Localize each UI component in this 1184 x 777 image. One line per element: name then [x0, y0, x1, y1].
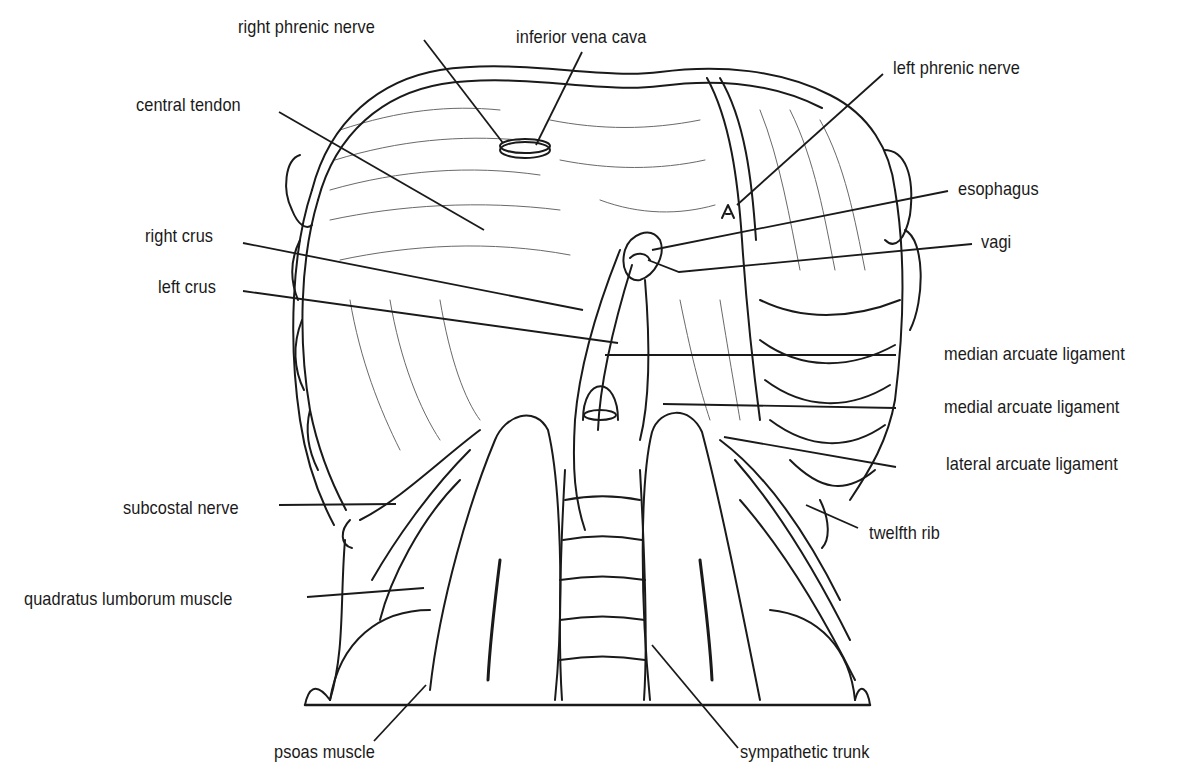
vertebral-column — [560, 470, 565, 700]
label-psoas-muscle: psoas muscle — [274, 741, 375, 763]
leader-twelfth-rib — [806, 505, 858, 528]
leader-psoas-muscle — [374, 685, 426, 741]
label-vagi: vagi — [981, 231, 1011, 253]
right-psoas — [430, 416, 560, 700]
label-esophagus: esophagus — [958, 178, 1039, 200]
label-median-arcuate-ligament: median arcuate ligament — [944, 343, 1125, 365]
leader-vagi — [648, 244, 972, 272]
right-crus-shape — [574, 250, 620, 530]
label-medial-arcuate-ligament: medial arcuate ligament — [944, 396, 1119, 418]
left-psoas — [643, 413, 760, 700]
label-lateral-arcuate-ligament: lateral arcuate ligament — [946, 453, 1118, 475]
leader-medial-arcuate-ligament — [663, 404, 896, 408]
leader-right-phrenic-nerve — [424, 40, 503, 143]
label-inferior-vena-cava: inferior vena cava — [516, 26, 647, 48]
label-left-crus: left crus — [158, 276, 216, 298]
label-twelfth-rib: twelfth rib — [869, 522, 940, 544]
diaphragm-illustration — [0, 0, 1184, 777]
leader-central-tendon — [279, 112, 484, 230]
leader-left-crus — [243, 291, 618, 343]
leader-quadratus-lumborum-muscle — [307, 588, 424, 597]
label-right-phrenic-nerve: right phrenic nerve — [238, 16, 375, 38]
label-central-tendon: central tendon — [136, 94, 241, 116]
leader-esophagus — [652, 191, 948, 250]
label-subcostal-nerve: subcostal nerve — [123, 497, 239, 519]
leader-subcostal-nerve — [279, 504, 396, 505]
leader-inferior-vena-cava — [536, 52, 582, 145]
label-sympathetic-trunk: sympathetic trunk — [740, 741, 870, 763]
left-crus-shape — [640, 280, 648, 440]
diaphragm-dome-outline — [312, 66, 895, 190]
label-right-crus: right crus — [145, 225, 213, 247]
diaphragm-diagram: right phrenic nerve inferior vena cava l… — [0, 0, 1184, 777]
leader-lines — [243, 40, 972, 748]
label-quadratus-lumborum-muscle: quadratus lumborum muscle — [24, 588, 232, 610]
leader-sympathetic-trunk — [652, 645, 738, 748]
leader-left-phrenic-nerve — [737, 74, 883, 205]
leader-lateral-arcuate-ligament — [724, 437, 896, 467]
label-left-phrenic-nerve: left phrenic nerve — [893, 57, 1020, 79]
